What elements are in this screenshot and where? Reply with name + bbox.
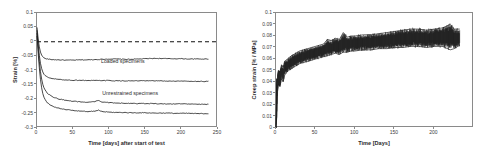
- y-tick-label: 0.05: [262, 67, 272, 72]
- y-tick-mark: [273, 46, 275, 47]
- y-tick-label: -0.2: [24, 96, 33, 101]
- x-tick-label: 200: [177, 130, 185, 135]
- y-tick-label: 0.04: [262, 79, 272, 84]
- y-tick-label: 0.07: [262, 44, 272, 49]
- y-tick-label: 0.09: [262, 21, 272, 26]
- x-tick-label: 50: [312, 130, 318, 135]
- y-tick-label: 0.1: [26, 10, 33, 15]
- y-tick-label: -0.05: [22, 53, 33, 58]
- y-tick-mark: [273, 115, 275, 116]
- y-tick-mark: [273, 12, 275, 13]
- y-tick-mark: [34, 112, 36, 113]
- y-tick-label: 0.03: [262, 90, 272, 95]
- y-tick-mark: [273, 35, 275, 36]
- data-series-line: [37, 30, 208, 81]
- y-tick-label: -0.25: [22, 110, 33, 115]
- y-tick-mark: [34, 12, 36, 13]
- x-tick-label: 100: [350, 130, 358, 135]
- strain-curves-layer: [37, 13, 218, 128]
- chart-panel-strain: -0.3-0.25-0.2-0.15-0.1-0.0500.050.1 0501…: [0, 0, 244, 155]
- y-tick-label: 0: [30, 38, 33, 43]
- x-tick-label: 100: [104, 130, 112, 135]
- creep-strain-oscillation-band: [276, 23, 460, 128]
- y-tick-label: -0.3: [24, 125, 33, 130]
- y-tick-label: -0.1: [24, 67, 33, 72]
- x-tick-mark: [314, 127, 315, 129]
- data-series-line: [37, 36, 208, 114]
- x-tick-mark: [36, 127, 37, 129]
- x-tick-label: 150: [140, 130, 148, 135]
- y-tick-mark: [34, 83, 36, 84]
- y-tick-mark: [34, 26, 36, 27]
- x-tick-mark: [72, 127, 73, 129]
- x-tick-label: 0: [274, 130, 277, 135]
- y-tick-label: -0.15: [22, 81, 33, 86]
- y-tick-mark: [273, 104, 275, 105]
- unrestrained-specimens-label: Unrestrained specimens: [102, 91, 158, 96]
- chart-panel-creep-strain: 00.010.020.030.040.050.060.070.080.090.1…: [244, 0, 487, 155]
- figure-two-panel-creep-strain: -0.3-0.25-0.2-0.15-0.1-0.0500.050.1 0501…: [0, 0, 487, 155]
- x-tick-label: 150: [390, 130, 398, 135]
- y-tick-label: 0.08: [262, 33, 272, 38]
- y-tick-mark: [273, 69, 275, 70]
- x-tick-mark: [108, 127, 109, 129]
- x-tick-mark: [275, 127, 276, 129]
- plot-area-creep-strain: [275, 12, 473, 127]
- x-tick-label: 250: [213, 130, 221, 135]
- y-tick-mark: [273, 23, 275, 24]
- y-tick-mark: [34, 40, 36, 41]
- x-tick-label: 50: [69, 130, 75, 135]
- x-axis-title-strain: Time [days] after start of test: [88, 141, 165, 147]
- plot-area-strain: [36, 12, 217, 127]
- y-axis-title-strain: Strain [%]: [13, 56, 19, 82]
- loaded-specimens-label: Loaded specimens: [101, 60, 145, 65]
- x-tick-mark: [354, 127, 355, 129]
- x-tick-mark: [217, 127, 218, 129]
- y-tick-mark: [273, 58, 275, 59]
- y-tick-label: 0.06: [262, 56, 272, 61]
- x-tick-mark: [144, 127, 145, 129]
- y-tick-mark: [34, 69, 36, 70]
- x-tick-mark: [393, 127, 394, 129]
- x-tick-mark: [180, 127, 181, 129]
- x-tick-mark: [433, 127, 434, 129]
- y-tick-mark: [273, 81, 275, 82]
- creep-strain-band-layer: [276, 13, 474, 128]
- x-tick-label: 0: [35, 130, 38, 135]
- x-tick-label: 200: [429, 130, 437, 135]
- y-tick-label: 0: [269, 125, 272, 130]
- y-tick-mark: [34, 55, 36, 56]
- y-tick-label: 0.1: [265, 10, 272, 15]
- y-tick-mark: [273, 92, 275, 93]
- y-tick-mark: [34, 98, 36, 99]
- y-axis-title-creep: Creep strain [% / MPa]: [252, 40, 258, 99]
- x-axis-title-creep: Time [Days]: [358, 141, 390, 147]
- y-tick-label: 0.01: [262, 113, 272, 118]
- data-series-line: [37, 27, 208, 60]
- initial-loading-rise: [276, 79, 277, 128]
- y-tick-label: 0.05: [23, 24, 33, 29]
- y-tick-label: 0.02: [262, 102, 272, 107]
